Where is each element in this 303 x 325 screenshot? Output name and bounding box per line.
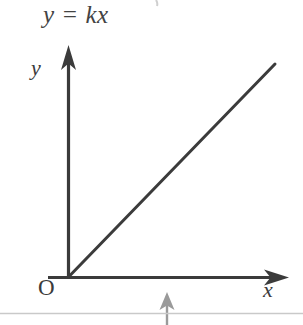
figure-container: y = kx y x O [0, 0, 303, 325]
pointer-arrow-icon [160, 292, 175, 325]
origin-label: O [38, 276, 55, 299]
y-axis-label: y [31, 57, 41, 79]
x-axis-label: x [263, 279, 273, 301]
line-y-equals-kx [69, 64, 276, 277]
equation-label: y = kx [43, 2, 109, 27]
clipped-glyph-artifact [156, 0, 157, 6]
